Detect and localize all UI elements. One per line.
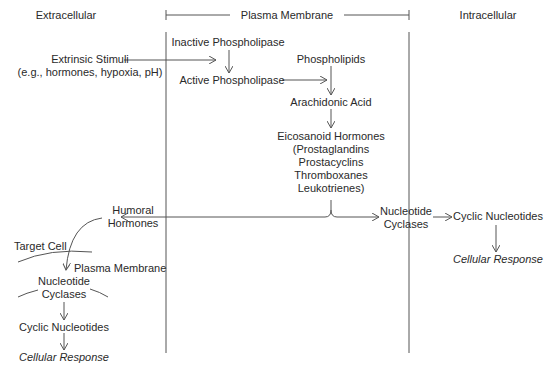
target-plasma-membrane-label: Plasma Membrane bbox=[74, 262, 166, 275]
inactive-phospholipase-node: Inactive Phospholipase bbox=[171, 36, 284, 49]
cyclic-nucleotides-intracellular-node: Cyclic Nucleotides bbox=[453, 210, 543, 223]
humoral-hormones-node: Humoral Hormones bbox=[108, 204, 159, 230]
arachidonic-acid-node: Arachidonic Acid bbox=[290, 96, 371, 109]
target-cell-label: Target Cell bbox=[14, 240, 67, 253]
cellular-response-intracellular-node: Cellular Response bbox=[453, 253, 543, 266]
cyclic-nucleotides-target-node: Cyclic Nucleotides bbox=[19, 321, 109, 334]
nucleotide-cyclases-target-node: Nucleotide Cyclases bbox=[38, 275, 90, 301]
nucleotide-cyclases-intracellular-node: Nucleotide Cyclases bbox=[380, 205, 432, 231]
plasma-membrane-label: Plasma Membrane bbox=[241, 9, 333, 22]
phospholipids-node: Phospholipids bbox=[297, 53, 366, 66]
extrinsic-stimuli-node: Extrinsic Stimuli (e.g., hormones, hypox… bbox=[18, 53, 163, 79]
intracellular-label: Intracellular bbox=[460, 9, 517, 22]
cellular-response-target-node: Cellular Response bbox=[19, 351, 109, 364]
extracellular-label: Extracellular bbox=[36, 9, 97, 22]
eicosanoid-hormones-node: Eicosanoid Hormones (Prostaglandins Pros… bbox=[277, 130, 385, 195]
active-phospholipase-node: Active Phospholipase bbox=[179, 74, 284, 87]
